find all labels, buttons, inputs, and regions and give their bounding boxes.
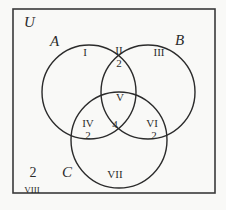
region-i-label: I bbox=[83, 46, 87, 58]
region-v-label: V bbox=[116, 91, 124, 103]
region-vii-label: VII bbox=[107, 168, 123, 180]
region-ii-count: 2 bbox=[116, 57, 122, 69]
region-iv-count: 2 bbox=[85, 129, 91, 141]
region-v-count: 4 bbox=[112, 118, 118, 130]
region-viii-label: VIII bbox=[24, 185, 40, 195]
region-ii-label: II bbox=[115, 44, 123, 56]
set-c-label: C bbox=[62, 164, 73, 180]
region-viii-count: 2 bbox=[30, 165, 37, 180]
universe-label: U bbox=[24, 14, 36, 30]
set-b-label: B bbox=[175, 32, 184, 48]
region-iv-label: IV bbox=[82, 117, 94, 129]
venn-diagram: U A B C I II 2 III V 4 IV 2 VI 2 VII 2 V… bbox=[0, 0, 226, 210]
region-vi-count: 2 bbox=[151, 129, 157, 141]
region-iii-label: III bbox=[154, 46, 165, 58]
region-vi-label: VI bbox=[146, 117, 158, 129]
set-a-label: A bbox=[49, 33, 60, 49]
